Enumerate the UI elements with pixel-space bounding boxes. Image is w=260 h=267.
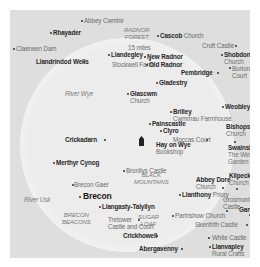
place-crickadarn[interactable]: Crickadarn <box>65 136 97 143</box>
place-abergavenny[interactable]: Abergavenny <box>139 245 178 252</box>
place-bishopstone[interactable]: BishopstoneChurch <box>226 123 250 137</box>
place-weobley[interactable]: Weobley <box>225 103 250 110</box>
place-tretower[interactable]: Tretower Castle and Court <box>108 216 154 230</box>
place-white-castle[interactable]: White Castle <box>212 234 247 241</box>
region-radnor-forest: RADNOR FOREST <box>124 27 149 41</box>
place-garway[interactable]: Garway <box>239 206 250 213</box>
river-wye-label: River Wye <box>65 90 93 97</box>
river-usk-label: River Usk <box>24 196 50 203</box>
area-map: RADNOR FOREST BLACK MOUNTAINS BRECON BEA… <box>10 10 250 258</box>
place-crickhowell[interactable]: Crickhowell <box>123 232 157 239</box>
place-brecon[interactable]: Brecon <box>83 192 112 201</box>
church-marker-icon <box>138 136 145 146</box>
place-clyro[interactable]: Clyro <box>163 127 179 134</box>
place-cascob[interactable]: Cascob Church <box>160 32 204 39</box>
place-glascwm[interactable]: GlascwmChurch <box>130 90 157 104</box>
place-claerwen-dam[interactable]: Claerwen Dam <box>16 45 56 52</box>
place-skenfrith-castle[interactable]: Skenfrith Castle <box>195 221 238 228</box>
radius-label: 15 miles <box>128 44 151 51</box>
place-shobdon[interactable]: ShobdonChurch <box>224 51 250 65</box>
place-partrishow-church[interactable]: Partrishow Church <box>175 212 225 219</box>
region-black-mountains: BLACK MOUNTAINS <box>134 172 169 186</box>
place-abbey-dore[interactable]: Abbey DoreChurch <box>196 176 230 190</box>
place-llandrindod-wells[interactable]: Llandrindod Wells <box>36 58 89 65</box>
place-painscastle[interactable]: Painscastle <box>152 120 186 127</box>
place-pembridge[interactable]: Pembridge <box>181 69 213 76</box>
place-llangasty-talyllyn[interactable]: Llangasty-Talyllyn <box>102 203 155 210</box>
place-burton-court[interactable]: Burton Court <box>232 65 250 79</box>
place-rhayader[interactable]: Rhayader <box>53 29 81 36</box>
place-llanthony[interactable]: Llanthony Priory <box>182 191 229 198</box>
place-abbey-cwmhir[interactable]: Abbey Cwmhir <box>84 17 124 24</box>
place-new-radnor[interactable]: New Radnor <box>147 53 183 60</box>
place-llanvapley[interactable]: LlanvapleyRural Crafts Museum <box>212 243 244 258</box>
place-kilpeck[interactable]: KilpeckChurch <box>229 172 250 186</box>
place-brecon-gaer[interactable]: Brecon Gaer <box>74 181 109 188</box>
place-old-radnor[interactable]: Old Radnor <box>149 61 182 68</box>
place-gladestry[interactable]: Gladestry <box>159 79 187 86</box>
place-croft-castle[interactable]: Croft Castle <box>202 42 234 49</box>
region-brecon-beacons: BRECON BEACONS <box>62 212 91 226</box>
place-llandegley[interactable]: Llandegley <box>111 51 143 58</box>
place-bronllys-castle[interactable]: Bronllys Castle <box>126 167 167 174</box>
place-hay-on-wye[interactable]: Hay on WyeBookshop <box>156 141 191 155</box>
place-merthyr-cynog[interactable]: Merthyr Cynog <box>56 159 99 166</box>
place-swainshill[interactable]: SwainshillThe Weir Garden <box>228 144 250 165</box>
